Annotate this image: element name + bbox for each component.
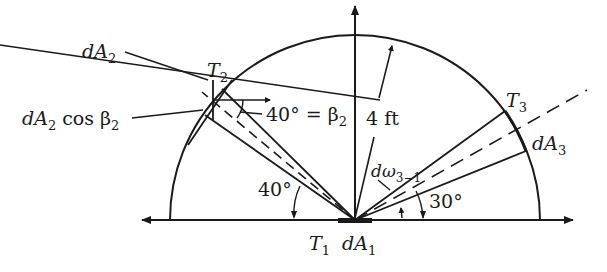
- angle-30-arrowhead: [420, 211, 426, 219]
- label-radius: 4 ft: [366, 107, 399, 129]
- label-dA2-cos-beta2: dA2 cos β2: [22, 107, 119, 133]
- domega-arc-arrow: [401, 208, 402, 218]
- dA2-leader: [125, 52, 208, 80]
- label-T2: T2: [207, 59, 228, 85]
- label-40-eq-beta2: 40° = β2: [266, 103, 347, 129]
- angle-40-arrowhead: [291, 211, 297, 219]
- label-dA1: dA1: [342, 232, 376, 258]
- label-angle-40: 40°: [258, 178, 292, 200]
- dA3-surface: [505, 111, 526, 151]
- label-T1: T1: [309, 232, 330, 258]
- label-T3: T3: [506, 89, 527, 115]
- label-dA2: dA2: [82, 40, 116, 66]
- domega-leader: [378, 180, 390, 190]
- beta2-angle-arc: [237, 100, 243, 118]
- dA2cos-leader: [132, 110, 203, 118]
- label-dA3: dA3: [532, 132, 566, 158]
- beta2-leader: [240, 112, 262, 114]
- radiation-geometry-diagram: dA2 T2 dA2 cos β2 40° = β2 4 ft T3 dA3 d…: [0, 0, 607, 272]
- radius-arrow: [0, 45, 380, 100]
- cone-T2-lower: [205, 115, 355, 220]
- radius-arrow-line: [379, 46, 392, 98]
- label-domega-3-1: dω3−1: [371, 161, 421, 185]
- label-angle-30: 30°: [429, 190, 463, 212]
